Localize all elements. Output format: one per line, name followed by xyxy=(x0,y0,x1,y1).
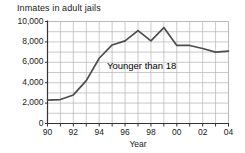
x-axis-tick-label: 92 xyxy=(61,128,85,137)
y-axis-tick-label: 10,000 xyxy=(0,17,44,26)
series-annotation-0: Younger than 18 xyxy=(107,61,176,71)
x-axis-tick-label: 98 xyxy=(139,128,163,137)
y-axis-tick-label: 4,000 xyxy=(0,78,44,87)
x-axis-tick-label: 90 xyxy=(36,128,60,137)
x-axis-tick-label: 02 xyxy=(191,128,215,137)
y-axis-tick-label: 2,000 xyxy=(0,98,44,107)
y-axis-tick-label: 8,000 xyxy=(0,37,44,46)
chart-container: Inmates in adult jails 02,0004,0006,0008… xyxy=(0,0,245,153)
y-axis-tick-label: 0 xyxy=(0,119,44,128)
x-axis-tick-label: 94 xyxy=(87,128,111,137)
y-axis-tick-label: 6,000 xyxy=(0,57,44,66)
chart-title: Inmates in adult jails xyxy=(17,3,101,14)
x-axis-tick-label: 00 xyxy=(165,128,189,137)
x-axis-title: Year xyxy=(48,140,229,149)
x-axis-tick-label: 04 xyxy=(217,128,241,137)
x-axis-tick-label: 96 xyxy=(113,128,137,137)
